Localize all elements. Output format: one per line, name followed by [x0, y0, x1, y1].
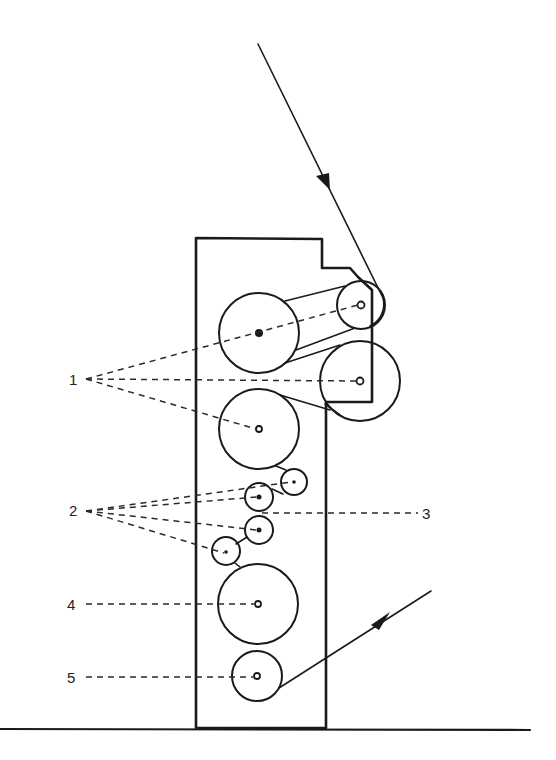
small-roller-upper	[281, 469, 307, 495]
label-4: 4	[67, 596, 75, 613]
roller-bottom	[232, 651, 282, 701]
roller-upper-left	[219, 293, 299, 373]
label-1: 1	[69, 371, 77, 388]
label-3: 3	[422, 505, 430, 522]
label-5: 5	[67, 669, 75, 686]
belt-a-b-lower	[296, 328, 355, 350]
incoming-web-line	[258, 44, 383, 298]
leader-lines-2	[86, 482, 291, 553]
roller-machine-diagram: 1 2 3 4 5	[0, 0, 556, 760]
belt-h-i	[235, 563, 240, 567]
small-roller-b	[245, 516, 273, 544]
belt-a-b-upper	[285, 286, 345, 301]
roller-middle-left	[219, 389, 299, 469]
small-roller-a	[245, 483, 273, 511]
outgoing-web-line	[279, 591, 431, 688]
incoming-arrow-icon	[316, 173, 330, 190]
belt-e-f	[272, 489, 283, 494]
roller-top-right-small	[337, 281, 385, 329]
belt-d-e	[276, 466, 286, 470]
label-2: 2	[69, 502, 77, 519]
leader-lines-1	[86, 305, 358, 429]
